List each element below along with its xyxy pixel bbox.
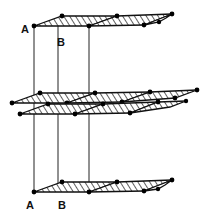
crystal-structure-figure: A B A B	[0, 0, 208, 215]
lattice-node	[173, 96, 178, 101]
lattice-node	[38, 91, 43, 96]
lattice-node	[101, 102, 106, 107]
lattice-node	[142, 189, 147, 194]
lattice-node	[46, 102, 51, 107]
crystal-structure-diagram: A B A B	[0, 0, 208, 215]
lattice-node	[157, 20, 161, 24]
lattice-node	[195, 88, 200, 93]
lattice-node	[73, 112, 78, 117]
lattice-node	[156, 100, 161, 105]
lattice-node	[128, 111, 133, 116]
lattice-node	[184, 99, 188, 103]
lattice-node	[10, 101, 15, 106]
label-b-top: B	[57, 36, 65, 48]
lattice-node	[18, 112, 23, 117]
lattice-node	[142, 23, 147, 28]
lattice-node	[87, 24, 92, 29]
lattice-node	[32, 24, 37, 29]
lattice-node	[115, 14, 120, 19]
lattice-node	[115, 180, 120, 185]
lattice-node	[60, 14, 65, 19]
lattice-node	[156, 187, 160, 191]
label-a-top: A	[21, 23, 29, 35]
lattice-node	[87, 190, 92, 195]
lattice-node	[60, 180, 65, 185]
lattice-node	[93, 91, 98, 96]
lattice-node	[170, 12, 175, 17]
label-a-bottom: A	[26, 199, 34, 211]
lattice-node	[170, 178, 175, 183]
lattice-node	[32, 190, 37, 195]
label-b-bottom: B	[58, 199, 66, 211]
lattice-node	[148, 90, 153, 95]
